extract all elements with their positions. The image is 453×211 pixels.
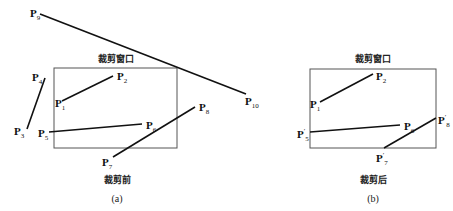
panel-b-state-label: 裁剪后 bbox=[360, 173, 387, 186]
point-label-p7: P7 bbox=[102, 157, 112, 171]
panel-a-caption: (a) bbox=[111, 193, 122, 204]
panel-a-window-label: 裁剪窗口 bbox=[98, 52, 134, 65]
segment-P5-P6 bbox=[49, 124, 142, 132]
point-label-p5-prime: P′5 bbox=[297, 128, 309, 143]
segment-P1-P2 bbox=[62, 76, 113, 101]
point-label-p1: P1 bbox=[310, 99, 320, 113]
point-label-p2: P2 bbox=[376, 71, 386, 85]
point-label-p8-prime: P′8 bbox=[438, 114, 450, 129]
segment-P9-P10 bbox=[40, 14, 246, 94]
panel-b-window-label: 裁剪窗口 bbox=[355, 52, 391, 65]
line-clipping-diagram: 裁剪窗口 裁剪前 (a) 裁剪窗口 裁剪后 (b) P1P2P3P4P5P6P7… bbox=[0, 0, 453, 211]
clip-window-a bbox=[54, 68, 177, 148]
point-label-p10: P10 bbox=[245, 96, 259, 110]
point-label-p8: P8 bbox=[199, 102, 209, 116]
point-label-p3: P3 bbox=[14, 126, 24, 140]
point-label-p6: P6 bbox=[146, 120, 156, 134]
segment-P1-P2 bbox=[320, 74, 373, 102]
clip-window-b bbox=[310, 69, 436, 148]
point-label-p4: P4 bbox=[32, 72, 42, 86]
point-label-p9: P9 bbox=[30, 8, 40, 22]
panel-a-state-label: 裁剪前 bbox=[104, 173, 131, 186]
panel-b-caption: (b) bbox=[367, 193, 379, 204]
point-label-p1: P1 bbox=[55, 98, 65, 112]
point-label-p6: P6 bbox=[404, 121, 414, 135]
segment-P5p-P6 bbox=[310, 125, 400, 132]
point-label-p2: P2 bbox=[117, 71, 127, 85]
point-label-p5: P5 bbox=[38, 128, 48, 142]
point-label-p7-prime: P′7 bbox=[376, 152, 388, 167]
